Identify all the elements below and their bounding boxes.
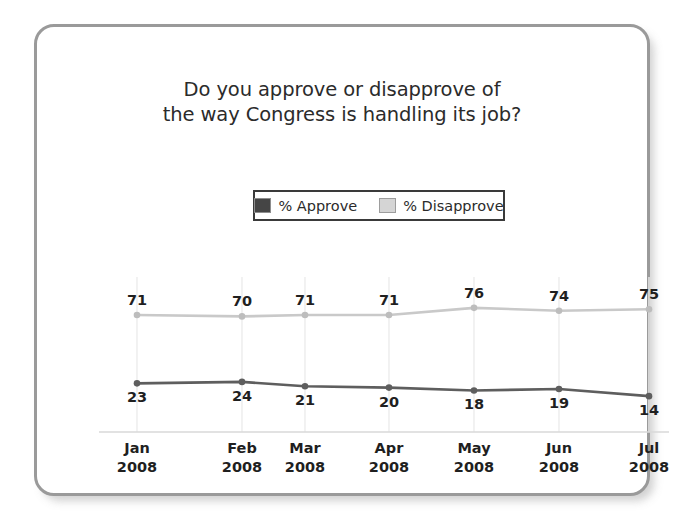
x-axis-tick-label: May2008 [454, 439, 494, 477]
data-point-marker [471, 387, 478, 394]
data-point-label: 14 [639, 402, 659, 418]
chart-title-line-1: Do you approve or disapprove of [184, 78, 501, 101]
x-tick-month: Apr [375, 440, 404, 456]
data-point-label: 20 [379, 394, 399, 410]
x-axis-tick-label: Jul2008 [629, 439, 669, 477]
x-tick-month: Jun [546, 440, 572, 456]
data-point-label: 75 [639, 286, 659, 302]
data-point-marker [239, 313, 246, 320]
data-point-marker [302, 383, 309, 390]
data-point-label: 24 [232, 388, 252, 404]
data-point-label: 21 [295, 392, 315, 408]
data-point-marker [646, 393, 653, 400]
x-axis-tick-label: Apr2008 [369, 439, 409, 477]
data-point-marker [302, 312, 309, 319]
series-line-disapprove [137, 308, 649, 317]
x-tick-year: 2008 [454, 458, 494, 477]
x-axis-labels: Jan2008Feb2008Mar2008Apr2008May2008Jun20… [99, 439, 669, 489]
data-point-label: 71 [127, 292, 147, 308]
x-tick-year: 2008 [285, 458, 325, 477]
chart-legend: % Approve % Disapprove [253, 190, 505, 221]
data-point-label: 70 [232, 293, 252, 309]
x-tick-year: 2008 [369, 458, 409, 477]
x-axis-tick-label: Jun2008 [539, 439, 579, 477]
chart-card-frame: Do you approve or disapprove of the way … [34, 24, 650, 496]
legend-label-approve: % Approve [278, 198, 357, 214]
x-tick-year: 2008 [222, 458, 262, 477]
data-point-marker [646, 306, 653, 313]
chart-title-line-2: the way Congress is handling its job? [37, 102, 647, 127]
data-point-label: 71 [295, 292, 315, 308]
data-point-label: 71 [379, 292, 399, 308]
data-point-marker [386, 312, 393, 319]
data-point-label: 76 [464, 285, 484, 301]
x-tick-month: Mar [289, 440, 320, 456]
data-point-marker [471, 305, 478, 312]
data-point-marker [239, 379, 246, 386]
x-axis-tick-label: Mar2008 [285, 439, 325, 477]
x-tick-year: 2008 [629, 458, 669, 477]
x-tick-year: 2008 [117, 458, 157, 477]
x-tick-month: Jan [124, 440, 150, 456]
data-point-label: 23 [127, 389, 147, 405]
x-tick-month: Jul [639, 440, 660, 456]
data-point-label: 74 [549, 288, 569, 304]
chart-title: Do you approve or disapprove of the way … [37, 77, 647, 127]
legend-item-disapprove: % Disapprove [379, 198, 503, 214]
x-axis-tick-label: Jan2008 [117, 439, 157, 477]
legend-swatch-approve-icon [254, 198, 271, 213]
data-point-marker [134, 312, 141, 319]
legend-item-approve: % Approve [254, 198, 357, 214]
data-point-marker [556, 307, 563, 314]
x-tick-month: Feb [227, 440, 257, 456]
x-axis-tick-label: Feb2008 [222, 439, 262, 477]
x-tick-year: 2008 [539, 458, 579, 477]
legend-swatch-disapprove-icon [379, 198, 396, 213]
legend-label-disapprove: % Disapprove [403, 198, 503, 214]
plot-area: 71707171767475 23242120181914 [99, 275, 669, 433]
chart-screenshot: Do you approve or disapprove of the way … [0, 0, 682, 524]
data-point-marker [134, 380, 141, 387]
data-point-label: 19 [549, 395, 569, 411]
x-tick-month: May [457, 440, 490, 456]
data-point-marker [386, 384, 393, 391]
data-point-label: 18 [464, 396, 484, 412]
data-point-marker [556, 386, 563, 393]
